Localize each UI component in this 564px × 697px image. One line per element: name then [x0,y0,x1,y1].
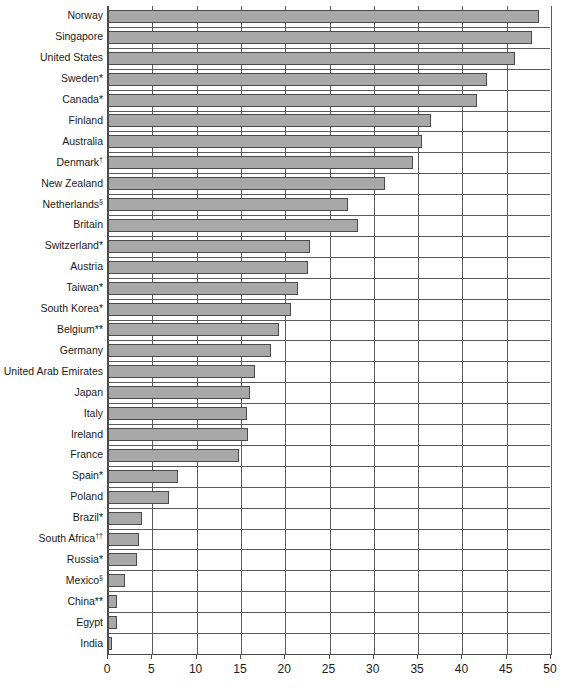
category-label: Ireland [0,429,103,440]
category-label: Italy [0,408,103,419]
category-label: New Zealand [0,178,103,189]
category-label: South Africa†† [0,533,103,544]
bar-row [108,236,550,257]
category-label: Egypt [0,617,103,628]
bar-chart: NorwaySingaporeUnited StatesSweden*Canad… [0,0,564,697]
bar [108,303,291,316]
category-label: Japan [0,387,103,398]
bar [108,73,487,86]
x-tick-45 [506,654,507,659]
bar-row [108,173,550,194]
bar-row [108,612,550,633]
category-label: China** [0,596,103,607]
category-label: Austria [0,261,103,272]
bar [108,407,247,420]
category-label: India [0,638,103,649]
bar [108,323,279,336]
bar-row [108,487,550,508]
category-label: Belgium** [0,324,103,335]
x-tick-label-5: 5 [148,662,155,676]
bar [108,574,125,587]
x-tick-40 [461,654,462,659]
plot-area [107,6,550,654]
bar-row [108,111,550,132]
category-label: United States [0,52,103,63]
bar-row [108,48,550,69]
x-tick-0 [107,654,108,659]
x-tick-label-45: 45 [499,662,512,676]
x-tick-label-25: 25 [322,662,335,676]
category-label: Norway [0,10,103,21]
bar [108,365,255,378]
category-axis-labels: NorwaySingaporeUnited StatesSweden*Canad… [0,6,103,654]
x-tick-label-30: 30 [366,662,379,676]
x-tick-10 [196,654,197,659]
x-tick-25 [329,654,330,659]
bar [108,135,422,148]
category-label: Canada* [0,94,103,105]
category-label: Finland [0,115,103,126]
x-tick-label-10: 10 [189,662,202,676]
bar-row [108,131,550,152]
category-label: United Arab Emirates [0,366,103,377]
category-label: Russia* [0,554,103,565]
x-tick-35 [417,654,418,659]
x-tick-label-50: 50 [543,662,556,676]
bar [108,553,137,566]
category-label: France [0,449,103,460]
bar [108,344,271,357]
bar [108,240,310,253]
bar-row [108,570,550,591]
bar [108,449,239,462]
bar [108,198,348,211]
x-tick-label-35: 35 [410,662,423,676]
bar [108,470,178,483]
bar [108,156,413,169]
bar-row [108,382,550,403]
bar [108,616,117,629]
bar [108,282,298,295]
category-label: Taiwan* [0,282,103,293]
bar [108,533,139,546]
bar-row [108,424,550,445]
category-label: Switzerland* [0,240,103,251]
category-label: Brazil* [0,512,103,523]
bar-row [108,299,550,320]
category-label: Australia [0,136,103,147]
category-label: Germany [0,345,103,356]
bar-row [108,194,550,215]
bar [108,512,142,525]
x-tick-label-40: 40 [455,662,468,676]
bar [108,10,539,23]
category-label: Netherlands§ [0,199,103,210]
bar-row [108,340,550,361]
x-tick-30 [373,654,374,659]
bar-row [108,320,550,341]
x-tick-5 [151,654,152,659]
bar-row [108,215,550,236]
bar-row [108,591,550,612]
bar-row [108,6,550,27]
bar-row [108,69,550,90]
bar-row [108,27,550,48]
bar [108,177,385,190]
category-label: Poland [0,491,103,502]
bar [108,491,169,504]
bar-row [108,90,550,111]
bar [108,114,431,127]
gridline-x-50 [551,6,552,654]
bar [108,261,308,274]
bar [108,94,477,107]
bar-row [108,549,550,570]
category-label: South Korea* [0,303,103,314]
x-tick-label-20: 20 [278,662,291,676]
bar-row [108,445,550,466]
x-tick-label-0: 0 [104,662,111,676]
x-tick-15 [240,654,241,659]
bar-row [108,529,550,550]
bar-row [108,278,550,299]
bar-row [108,361,550,382]
bar [108,595,117,608]
category-label: Mexico§ [0,575,103,586]
bar-row [108,508,550,529]
